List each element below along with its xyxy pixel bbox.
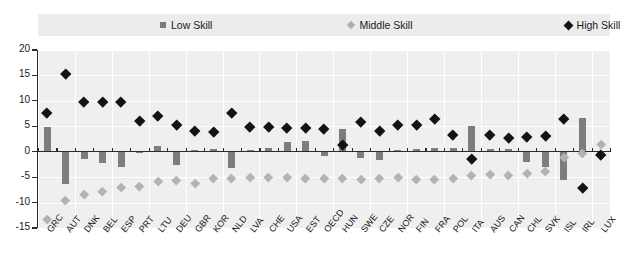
gridline-vertical	[518, 50, 519, 228]
y-axis-tick-label: -10	[0, 196, 30, 207]
gridline-vertical	[481, 50, 482, 228]
legend-label-high-skill: High Skill	[577, 19, 620, 31]
marker-high-skill	[153, 111, 164, 122]
gridline-vertical	[223, 50, 224, 228]
marker-middle-skill	[80, 189, 89, 198]
gridline-vertical	[555, 50, 556, 228]
legend-label-low-skill: Low Skill	[171, 19, 212, 31]
bar-low-skill	[376, 152, 383, 160]
marker-middle-skill	[98, 187, 107, 196]
marker-middle-skill	[246, 173, 255, 182]
marker-middle-skill	[504, 170, 513, 179]
marker-middle-skill	[116, 183, 125, 192]
marker-high-skill	[79, 97, 90, 108]
marker-high-skill	[97, 97, 108, 108]
marker-high-skill	[282, 122, 293, 133]
marker-middle-skill	[596, 139, 605, 148]
legend-item-low-skill: Low Skill	[160, 19, 212, 31]
x-axis-labels: GRCAUTDNKBELESPPRTLTUDEUGBRKORNLDLVACHEU…	[0, 228, 618, 276]
y-axis-tick	[32, 151, 37, 152]
x-axis-tick	[333, 148, 334, 152]
gridline-vertical	[296, 50, 297, 228]
gridline-vertical	[149, 50, 150, 228]
y-axis-tick	[32, 126, 37, 127]
marker-middle-skill	[153, 177, 162, 186]
gridline	[38, 50, 610, 51]
marker-middle-skill	[135, 181, 144, 190]
x-axis-tick	[499, 148, 500, 152]
x-axis-tick	[112, 148, 113, 152]
x-axis-tick	[56, 148, 57, 152]
chart-legend: Low Skill Middle Skill High Skill	[38, 14, 610, 36]
marker-high-skill	[540, 131, 551, 142]
marker-middle-skill	[264, 173, 273, 182]
marker-middle-skill	[301, 174, 310, 183]
y-axis-tick-label: 10	[0, 94, 30, 105]
bar-low-skill	[81, 152, 88, 160]
marker-high-skill	[171, 119, 182, 130]
bar-low-skill	[173, 152, 180, 166]
x-axis-tick	[462, 148, 463, 152]
gridline	[38, 75, 610, 76]
marker-high-skill	[448, 130, 459, 141]
marker-middle-skill	[449, 174, 458, 183]
y-axis-tick	[32, 49, 37, 50]
bar-low-skill	[118, 152, 125, 168]
x-axis-tick	[241, 148, 242, 152]
marker-high-skill	[42, 107, 53, 118]
y-axis-tick-label: 0	[0, 145, 30, 156]
x-axis-tick	[296, 148, 297, 152]
diamond-small-marker-icon	[347, 21, 355, 29]
x-axis-tick	[278, 148, 279, 152]
marker-high-skill	[466, 154, 477, 165]
plot-area	[38, 50, 610, 228]
marker-high-skill	[116, 96, 127, 107]
x-axis-tick	[407, 148, 408, 152]
marker-high-skill	[392, 119, 403, 130]
bar-low-skill	[357, 152, 364, 159]
marker-high-skill	[245, 121, 256, 132]
gridline-vertical	[186, 50, 187, 228]
marker-middle-skill	[209, 174, 218, 183]
bar-low-skill	[579, 118, 586, 152]
x-axis-tick	[204, 148, 205, 152]
bar-low-skill	[99, 152, 106, 164]
x-axis-tick	[389, 148, 390, 152]
marker-middle-skill	[430, 175, 439, 184]
marker-high-skill	[503, 132, 514, 143]
gridline-vertical	[259, 50, 260, 228]
square-marker-icon	[160, 22, 166, 28]
diamond-large-marker-icon	[563, 20, 573, 30]
x-axis-tick	[75, 148, 76, 152]
x-axis-tick	[518, 148, 519, 152]
legend-item-middle-skill: Middle Skill	[348, 19, 412, 31]
x-axis-tick	[93, 148, 94, 152]
marker-middle-skill	[282, 173, 291, 182]
marker-high-skill	[319, 123, 330, 134]
x-axis-tick	[536, 148, 537, 152]
x-axis-tick	[259, 148, 260, 152]
marker-middle-skill	[319, 174, 328, 183]
marker-high-skill	[522, 131, 533, 142]
legend-item-high-skill: High Skill	[565, 19, 620, 31]
y-axis-tick	[32, 177, 37, 178]
x-axis-tick	[555, 148, 556, 152]
marker-high-skill	[134, 116, 145, 127]
marker-middle-skill	[541, 166, 550, 175]
gridline-vertical	[407, 50, 408, 228]
x-axis-tick	[223, 148, 224, 152]
x-axis-tick	[186, 148, 187, 152]
bar-low-skill	[523, 152, 530, 163]
marker-high-skill	[300, 122, 311, 133]
y-axis-tick-label: 20	[0, 43, 30, 54]
y-axis-tick-label: 5	[0, 119, 30, 130]
legend-label-middle-skill: Middle Skill	[359, 19, 412, 31]
marker-middle-skill	[227, 174, 236, 183]
marker-middle-skill	[61, 196, 70, 205]
marker-middle-skill	[467, 170, 476, 179]
bar-low-skill	[228, 152, 235, 169]
marker-middle-skill	[375, 174, 384, 183]
x-axis-tick	[370, 148, 371, 152]
gridline-vertical	[38, 50, 39, 228]
x-axis-tick	[610, 148, 611, 152]
